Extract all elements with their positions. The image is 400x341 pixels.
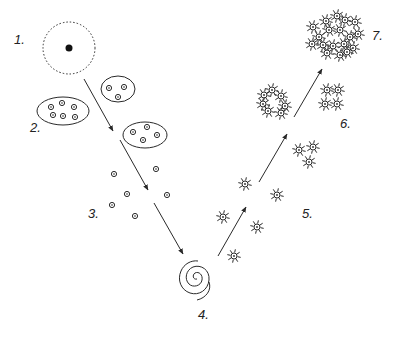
radiant-cell-icon	[318, 97, 331, 110]
radiant-cell-icon	[306, 20, 319, 33]
stage-labels: 1. 2. 3. 4. 5. 6. 7.	[14, 28, 383, 322]
cell-cluster	[123, 122, 167, 148]
cell-icon	[50, 112, 55, 117]
cell-icon	[106, 85, 111, 90]
arrow-icon	[259, 134, 287, 182]
arrow-icon	[294, 69, 322, 117]
nucleus-dot	[66, 45, 73, 52]
cell-icon	[144, 124, 149, 129]
cluster-ellipse	[37, 97, 89, 125]
stage-label-2: 2.	[29, 120, 41, 135]
cell-icon	[59, 100, 64, 105]
radiant-cell-icon	[331, 83, 344, 96]
stage-label-7: 7.	[372, 28, 383, 43]
lifecycle-diagram: 1. 2. 3. 4. 5. 6. 7.	[0, 0, 400, 341]
radiant-cell-icon	[250, 220, 263, 233]
cell-cluster	[37, 97, 89, 125]
stage-label-4: 4.	[198, 307, 209, 322]
radiant-cell-icon	[270, 188, 283, 201]
cell-icon	[153, 166, 158, 171]
stage-label-3: 3.	[88, 206, 99, 221]
radiant-cell-icon	[306, 140, 319, 153]
radiant-cell-icon	[238, 177, 251, 190]
stage-6-radiant-clusters	[256, 83, 344, 119]
cell-icon	[124, 191, 129, 196]
stage-1-origin	[43, 22, 95, 74]
cell-cluster	[101, 76, 135, 102]
stage-5-radiant-cells	[216, 140, 319, 262]
cell-icon	[72, 114, 77, 119]
cell-icon	[60, 113, 65, 118]
stage-4-spiral-icon	[179, 261, 209, 300]
cell-icon	[115, 94, 120, 99]
radiant-cell-icon	[320, 83, 333, 96]
arrow-icon	[154, 203, 183, 254]
stage-7-dense-cluster	[305, 9, 364, 61]
cell-icon	[111, 171, 116, 176]
cell-icon	[121, 84, 126, 89]
arrow-icon	[84, 79, 113, 131]
cell-icon	[130, 129, 135, 134]
radiant-cell-icon	[302, 155, 315, 168]
radiant-cell-icon	[351, 27, 364, 40]
cell-icon	[132, 213, 137, 218]
radiant-cell-icon	[292, 143, 305, 156]
cell-icon	[164, 192, 169, 197]
diagram-svg: 1. 2. 3. 4. 5. 6. 7.	[0, 0, 400, 341]
cell-icon	[71, 104, 76, 109]
stage-label-1: 1.	[14, 32, 25, 47]
stage-label-6: 6.	[340, 116, 351, 131]
radiant-cell-icon	[330, 97, 343, 110]
radiant-cell-icon	[216, 210, 229, 223]
radiant-cell-icon	[227, 249, 240, 262]
cell-icon	[109, 202, 114, 207]
radiant-cell-icon	[348, 15, 361, 28]
cell-icon	[140, 137, 145, 142]
cell-icon	[48, 104, 53, 109]
radiant-cell-icon	[333, 23, 346, 36]
cell-icon	[154, 132, 159, 137]
stage-label-5: 5.	[302, 206, 313, 221]
